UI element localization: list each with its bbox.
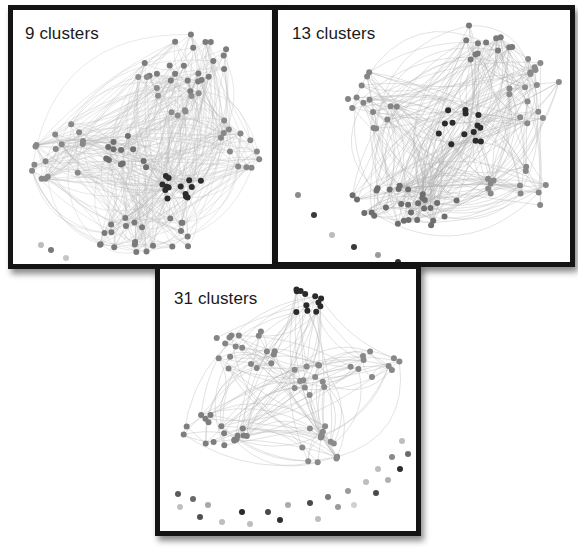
graph-node [268, 360, 274, 366]
isolated-node [311, 212, 317, 218]
graph-node [185, 234, 191, 240]
graph-node [185, 78, 191, 84]
graph-node [398, 201, 404, 207]
graph-node [415, 200, 421, 206]
graph-node [302, 291, 308, 297]
graph-node [461, 131, 467, 137]
graph-node [155, 93, 161, 99]
graph-node [304, 308, 310, 314]
graph-node [436, 131, 442, 137]
graph-node [239, 345, 245, 351]
graph-node [483, 40, 489, 46]
isolated-node [247, 521, 253, 527]
graph-node [345, 96, 351, 102]
graph-node [299, 445, 305, 451]
graph-node [307, 426, 313, 432]
graph-node [408, 210, 414, 216]
graph-node [366, 69, 372, 75]
graph-node [524, 120, 530, 126]
graph-node [292, 385, 298, 391]
graph-node [231, 437, 237, 443]
graph-node [509, 44, 515, 50]
graph-node [313, 309, 319, 315]
graph-node [434, 200, 440, 206]
panel-label-9-clusters: 9 clusters [25, 24, 99, 44]
isolated-node [375, 252, 381, 258]
graph-node [52, 132, 58, 138]
graph-node [208, 412, 214, 418]
graph-node [383, 204, 389, 210]
graph-node [375, 185, 381, 191]
graph-node [198, 178, 204, 184]
graph-node [196, 90, 202, 96]
graph-node [189, 93, 195, 99]
isolated-node [397, 466, 403, 472]
graph-node [333, 456, 339, 462]
graph-node [388, 103, 394, 109]
graph-node [59, 141, 65, 147]
network-graph-9-clusters [13, 10, 272, 264]
isolated-node [285, 502, 291, 508]
graph-node [43, 158, 49, 164]
graph-node [206, 74, 212, 80]
graph-node [218, 135, 224, 141]
graph-node [493, 35, 499, 41]
isolated-node [38, 242, 44, 248]
graph-node [75, 170, 81, 176]
panel-9-clusters: 9 clusters [8, 5, 277, 269]
graph-node [240, 425, 246, 431]
graph-node [518, 190, 524, 196]
graph-node [235, 164, 241, 170]
graph-node [80, 138, 86, 144]
graph-node [188, 32, 194, 38]
graph-node [272, 348, 278, 354]
graph-node [216, 355, 222, 361]
graph-node [478, 138, 484, 144]
graph-node [76, 129, 82, 135]
isolated-node [239, 509, 245, 515]
graph-node [221, 66, 227, 72]
graph-node [488, 191, 494, 197]
graph-node [236, 333, 242, 339]
graph-node [316, 362, 322, 368]
graph-node [154, 85, 160, 91]
isolated-node [325, 494, 331, 500]
graph-node [228, 332, 234, 338]
isolated-node [190, 496, 196, 502]
graph-node [534, 82, 540, 88]
graph-node [118, 147, 124, 153]
graph-node [166, 175, 172, 181]
graph-node [322, 423, 328, 429]
graph-node [247, 137, 253, 143]
graph-node [473, 138, 479, 144]
graph-node [189, 184, 195, 190]
graph-node [405, 187, 411, 193]
graph-node [386, 363, 392, 369]
graph-node [123, 223, 129, 229]
graph-node [428, 222, 434, 228]
graph-node [305, 458, 311, 464]
isolated-node [405, 451, 411, 457]
graph-node [102, 230, 108, 236]
graph-node [111, 244, 117, 250]
graph-node [320, 379, 326, 385]
graph-node [394, 104, 400, 110]
graph-node [172, 71, 178, 77]
graph-node [233, 344, 239, 350]
graph-node [527, 69, 533, 75]
graph-node [293, 309, 299, 315]
graph-node [258, 329, 264, 335]
graph-node [361, 210, 367, 216]
graph-node [33, 144, 39, 150]
graph-node [302, 385, 308, 391]
graph-node [165, 196, 171, 202]
isolated-node [48, 247, 54, 253]
graph-node [307, 392, 313, 398]
isolated-node [307, 500, 313, 506]
graph-node [535, 109, 541, 115]
isolated-node [335, 504, 341, 510]
graph-node [198, 412, 204, 418]
graph-node [427, 205, 433, 211]
graph-node [175, 113, 181, 119]
graph-node [442, 214, 448, 220]
